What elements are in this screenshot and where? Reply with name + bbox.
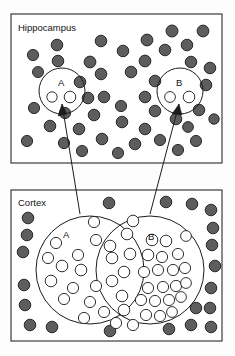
filled-neuron [116, 116, 128, 128]
filled-neuron [27, 49, 38, 60]
filled-neuron [205, 204, 217, 216]
filled-neuron [52, 55, 64, 67]
open-neuron [142, 282, 153, 293]
filled-neuron [21, 135, 32, 146]
open-neuron [106, 275, 118, 287]
cortex-ensemble-a-label: A [63, 229, 70, 240]
open-neuron [127, 319, 138, 330]
open-neuron [127, 215, 139, 227]
filled-neuron [206, 239, 218, 251]
cortex-ensemble-b-label: B [148, 231, 154, 242]
open-neuron [90, 280, 101, 291]
open-neuron [124, 248, 136, 260]
filled-neuron [204, 62, 216, 74]
open-neuron [121, 228, 133, 240]
neural-representation-diagram: Hippocampus AB Cortex AB [0, 0, 235, 356]
open-neuron [176, 292, 187, 303]
open-neuron [167, 307, 178, 318]
open-neuron [118, 266, 130, 278]
open-neuron [118, 304, 130, 316]
filled-neuron [154, 134, 165, 145]
open-neuron [72, 249, 83, 260]
filled-neuron [181, 39, 193, 51]
filled-neuron [19, 299, 31, 311]
filled-neuron [76, 145, 87, 156]
open-neuron [110, 317, 121, 328]
hippocampus-ensemble-a-label: A [58, 77, 65, 88]
open-neuron [172, 248, 183, 259]
open-neuron [90, 234, 101, 245]
open-neuron [84, 296, 95, 307]
filled-neuron [166, 25, 178, 37]
cortex-panel: Cortex AB [11, 190, 222, 341]
open-neuron [58, 293, 69, 304]
filled-neuron [160, 196, 172, 208]
open-neuron [160, 235, 172, 247]
filled-neuron [84, 56, 96, 68]
filled-neuron [185, 319, 197, 331]
filled-neuron [149, 105, 161, 117]
hippocampus-panel-label: Hippocampus [18, 22, 76, 33]
filled-neuron [51, 39, 63, 51]
figure-root: Hippocampus AB Cortex AB [0, 0, 235, 356]
filled-neuron [205, 282, 217, 294]
hippocampus-panel: Hippocampus AB [11, 14, 222, 163]
open-neuron [138, 266, 149, 277]
open-neuron [181, 278, 192, 289]
filled-neuron [205, 321, 217, 333]
filled-neuron [185, 56, 197, 68]
filled-neuron [44, 120, 56, 132]
open-neuron [181, 231, 192, 242]
filled-neuron [197, 25, 209, 37]
open-neuron [106, 252, 118, 264]
open-neuron [152, 264, 163, 275]
filled-neuron [22, 212, 34, 224]
open-neuron [156, 251, 167, 262]
filled-neuron [172, 144, 183, 155]
filled-neuron [117, 45, 129, 57]
filled-neuron [73, 123, 85, 135]
filled-neuron [46, 321, 58, 333]
open-neuron [67, 282, 78, 293]
filled-neuron [209, 114, 219, 124]
filled-neuron [88, 109, 100, 121]
open-neuron [142, 249, 154, 261]
open-neuron [45, 275, 57, 287]
filled-neuron [96, 133, 108, 145]
open-neuron [56, 260, 68, 272]
open-neuron [140, 309, 151, 320]
open-neuron [50, 237, 61, 248]
cortex-panel-label: Cortex [18, 197, 46, 208]
filled-neuron [139, 91, 151, 103]
open-neuron [78, 312, 89, 323]
open-neuron [149, 295, 160, 306]
filled-neuron [204, 302, 216, 314]
filled-neuron [115, 100, 126, 111]
filled-neuron [209, 260, 221, 272]
filled-neuron [103, 197, 115, 209]
filled-neuron [141, 34, 153, 46]
open-neuron [135, 294, 146, 305]
filled-neuron [139, 55, 151, 67]
open-neuron [179, 262, 190, 273]
open-neuron [75, 264, 87, 276]
open-neuron [88, 216, 99, 227]
filled-neuron [163, 323, 175, 335]
filled-neuron [24, 319, 36, 331]
open-neuron [64, 91, 76, 103]
filled-neuron [183, 122, 194, 133]
filled-neuron [98, 91, 110, 103]
filled-neuron [159, 44, 171, 56]
open-neuron [116, 290, 128, 302]
open-neuron [170, 280, 181, 291]
open-neuron [42, 252, 53, 263]
open-neuron [183, 91, 195, 103]
filled-neuron [33, 67, 44, 78]
filled-neuron [112, 147, 123, 158]
filled-neuron [129, 138, 141, 150]
filled-neuron [95, 68, 107, 80]
filled-neuron [207, 222, 219, 234]
filled-neuron [139, 123, 151, 135]
open-neuron [167, 264, 178, 275]
filled-neuron [190, 135, 201, 146]
